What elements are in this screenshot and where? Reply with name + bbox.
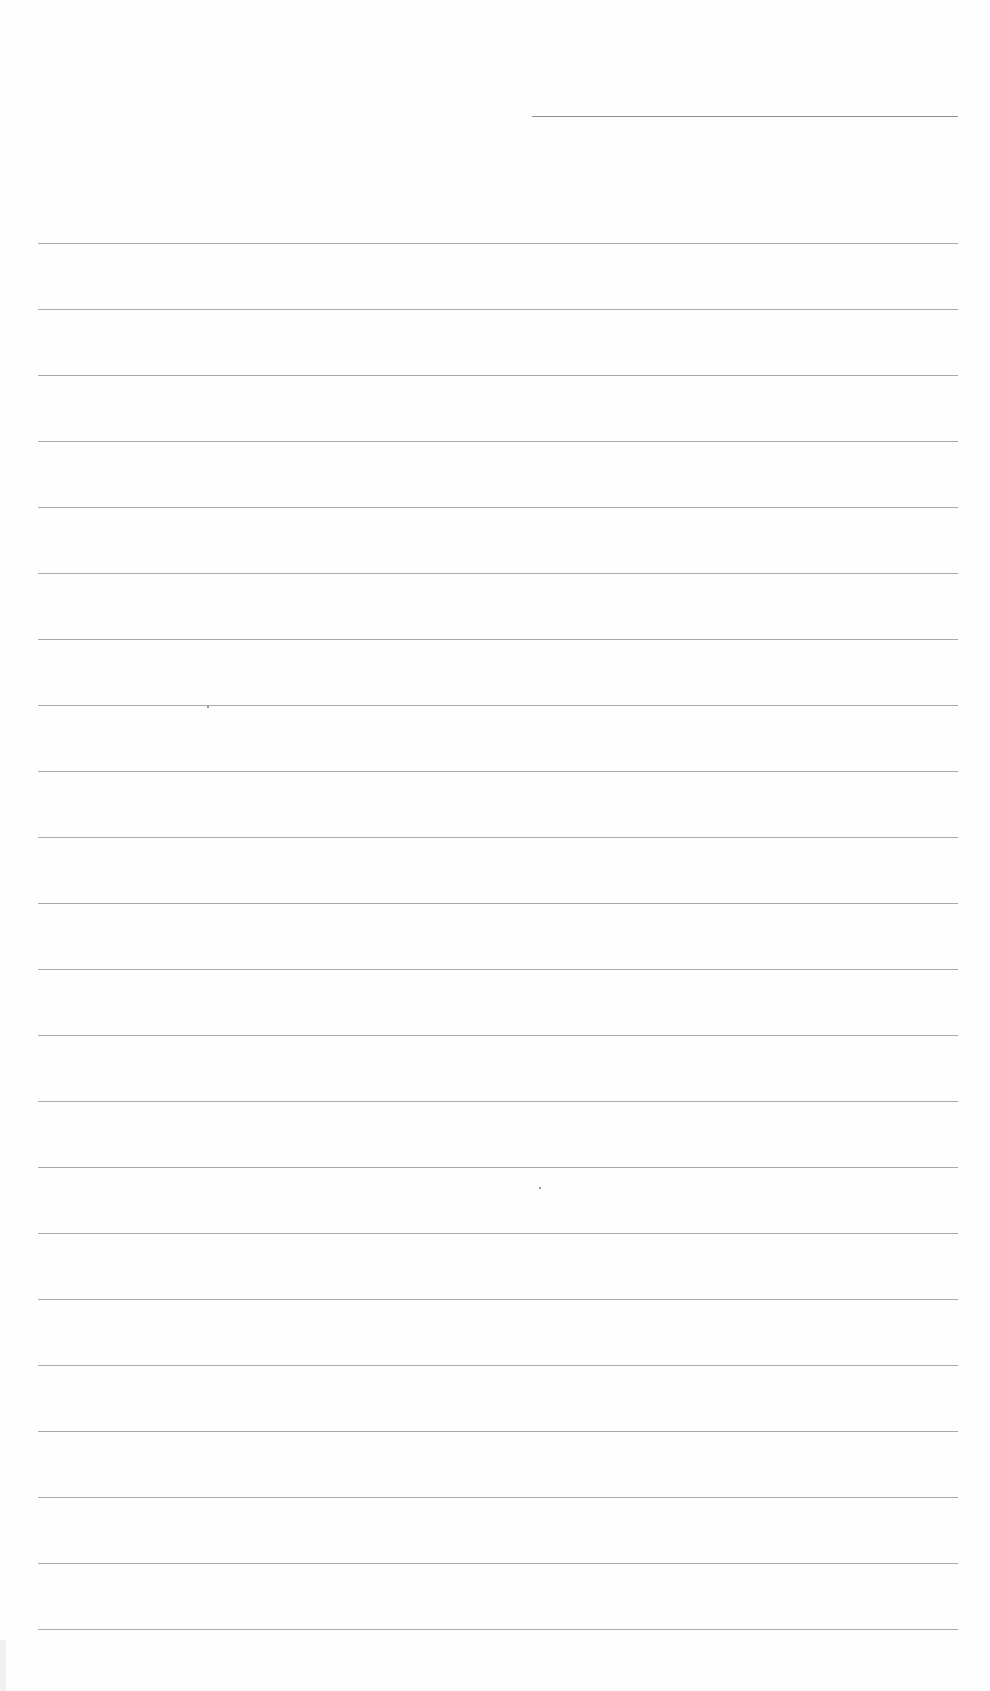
ruled-line [38, 1233, 958, 1234]
ruled-line [38, 1497, 958, 1498]
ruled-line [38, 1563, 958, 1564]
ruled-line [38, 243, 958, 244]
ruled-line [38, 441, 958, 442]
paper-speck [207, 706, 209, 708]
ruled-line [38, 1629, 958, 1630]
ruled-line [38, 1431, 958, 1432]
ruled-line [38, 1101, 958, 1102]
ruled-line [38, 375, 958, 376]
ruled-line [38, 1299, 958, 1300]
ruled-line [38, 1035, 958, 1036]
ruled-line [38, 1167, 958, 1168]
ruled-line [38, 705, 958, 706]
ruled-line [38, 903, 958, 904]
ruled-line [38, 969, 958, 970]
ruled-line [38, 639, 958, 640]
header-rule-line [532, 116, 958, 117]
paper-speck [539, 1187, 541, 1189]
ruled-line [38, 1365, 958, 1366]
ruled-line [38, 573, 958, 574]
ruled-line [38, 507, 958, 508]
ruled-line [38, 309, 958, 310]
page-edge-shadow [0, 1640, 6, 1691]
ruled-line [38, 771, 958, 772]
lined-paper-page [0, 0, 990, 1691]
ruled-line [38, 837, 958, 838]
